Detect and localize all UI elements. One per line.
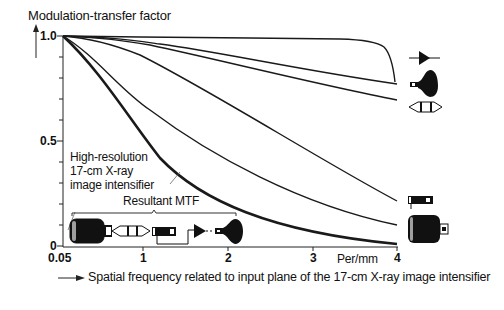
x-tick-1: 1 bbox=[140, 252, 147, 264]
y-tick-1: 1.0 bbox=[40, 30, 57, 42]
video-recorder-icon bbox=[408, 196, 433, 209]
leader-line-result bbox=[170, 172, 180, 184]
camera-tube-icon bbox=[410, 70, 438, 97]
curve-image-intensifier bbox=[63, 36, 397, 225]
curve-camera-tube bbox=[63, 36, 397, 84]
x-tick-0-05: 0.05 bbox=[48, 252, 71, 264]
y-axis-label: Modulation-transfer factor bbox=[28, 9, 171, 22]
x-unit-label: Per/mm bbox=[337, 253, 378, 266]
x-tick-2: 2 bbox=[225, 252, 232, 264]
x-axis-arrow-icon bbox=[58, 275, 85, 281]
system-chain-icon bbox=[70, 219, 243, 244]
amplifier-icon bbox=[409, 51, 440, 65]
y-tick-0-5: 0.5 bbox=[40, 135, 57, 147]
annotation-resultant-mtf: Resultant MTF bbox=[123, 195, 199, 208]
annotation-image-intensifier-2: 17-cm X-ray bbox=[70, 165, 133, 178]
x-tick-3: 3 bbox=[310, 252, 317, 264]
lens-icon bbox=[409, 102, 442, 112]
chain-brace bbox=[72, 210, 236, 216]
x-axis-label: Spatial frequency related to input plane… bbox=[88, 271, 490, 284]
x-tick-4: 4 bbox=[394, 252, 401, 264]
axes bbox=[57, 36, 398, 251]
y-axis-arrow-icon bbox=[33, 24, 39, 58]
annotation-image-intensifier-3: image intensifier bbox=[70, 179, 154, 192]
image-intensifier-icon bbox=[408, 215, 448, 243]
curve-video-amplifier bbox=[63, 36, 395, 82]
annotation-image-intensifier-1: High-resolution bbox=[70, 151, 148, 164]
